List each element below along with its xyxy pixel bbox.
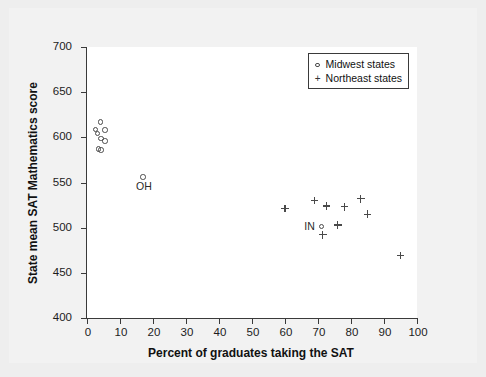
legend-item-northeast: + Northeast states — [314, 71, 402, 85]
x-tick: 100 — [417, 318, 418, 324]
legend-label-northeast: Northeast states — [326, 71, 402, 85]
y-tick-label: 450 — [53, 266, 72, 278]
data-point-midwest — [319, 224, 324, 229]
x-tick: 30 — [186, 318, 187, 324]
data-point-northeast — [364, 210, 372, 218]
x-tick: 50 — [252, 318, 253, 324]
data-point-northeast — [319, 231, 327, 239]
y-tick: 450 — [81, 273, 87, 274]
data-point-northeast — [323, 202, 331, 210]
y-tick: 700 — [81, 47, 87, 48]
x-tick-label: 0 — [85, 326, 91, 338]
x-tick-label: 100 — [408, 326, 427, 338]
x-tick-label: 20 — [148, 326, 161, 338]
x-tick-label: 50 — [247, 326, 260, 338]
circle-marker-icon — [314, 57, 322, 71]
data-point-northeast — [334, 221, 342, 229]
data-point-label: IN — [304, 220, 315, 232]
data-point-midwest — [98, 147, 103, 152]
x-axis-title-text: Percent of graduates taking the SAT — [148, 346, 354, 360]
y-tick-label: 700 — [53, 40, 72, 52]
x-tick-label: 40 — [214, 326, 227, 338]
legend-label-midwest: Midwest states — [326, 57, 395, 71]
data-point-midwest — [98, 119, 103, 124]
data-point-midwest — [140, 174, 145, 179]
data-point-northeast — [281, 205, 289, 213]
y-tick: 650 — [81, 92, 87, 93]
chart-legend: Midwest states + Northeast states — [308, 53, 409, 89]
y-tick-label: 600 — [53, 130, 72, 142]
scatter-plot-figure: State mean SAT Mathematics score 4004505… — [9, 8, 477, 363]
figure-page: State mean SAT Mathematics score 4004505… — [0, 0, 486, 377]
data-point-label: OH — [136, 180, 152, 192]
x-tick: 60 — [285, 318, 286, 324]
data-point-northeast — [311, 197, 319, 205]
data-point-midwest — [102, 127, 107, 132]
y-tick-label: 550 — [53, 176, 72, 188]
plot-area: 400450500550600650700 010203040506070809… — [86, 47, 417, 319]
y-tick: 600 — [81, 137, 87, 138]
x-tick: 90 — [384, 318, 385, 324]
legend-item-midwest: Midwest states — [314, 57, 402, 71]
y-tick: 500 — [81, 228, 87, 229]
x-tick-label: 70 — [313, 326, 326, 338]
x-tick-label: 30 — [181, 326, 194, 338]
x-tick: 0 — [87, 318, 88, 324]
data-point-northeast — [397, 252, 405, 260]
y-axis-title-text: State mean SAT Mathematics score — [26, 82, 40, 284]
y-tick-label: 500 — [53, 221, 72, 233]
x-tick: 10 — [120, 318, 121, 324]
x-tick-label: 90 — [379, 326, 392, 338]
x-tick-label: 80 — [346, 326, 359, 338]
x-tick: 40 — [219, 318, 220, 324]
y-tick-label: 650 — [53, 85, 72, 97]
data-point-northeast — [341, 203, 349, 211]
y-axis-title: State mean SAT Mathematics score — [25, 47, 41, 318]
x-axis-title: Percent of graduates taking the SAT — [86, 346, 416, 360]
plus-marker-icon: + — [314, 72, 322, 86]
x-tick-label: 10 — [115, 326, 128, 338]
data-point-midwest — [102, 138, 107, 143]
y-tick-label: 400 — [53, 311, 72, 323]
data-point-northeast — [357, 195, 365, 203]
x-tick: 80 — [351, 318, 352, 324]
y-tick: 550 — [81, 183, 87, 184]
x-tick: 70 — [318, 318, 319, 324]
x-tick-label: 60 — [280, 326, 293, 338]
x-tick: 20 — [153, 318, 154, 324]
